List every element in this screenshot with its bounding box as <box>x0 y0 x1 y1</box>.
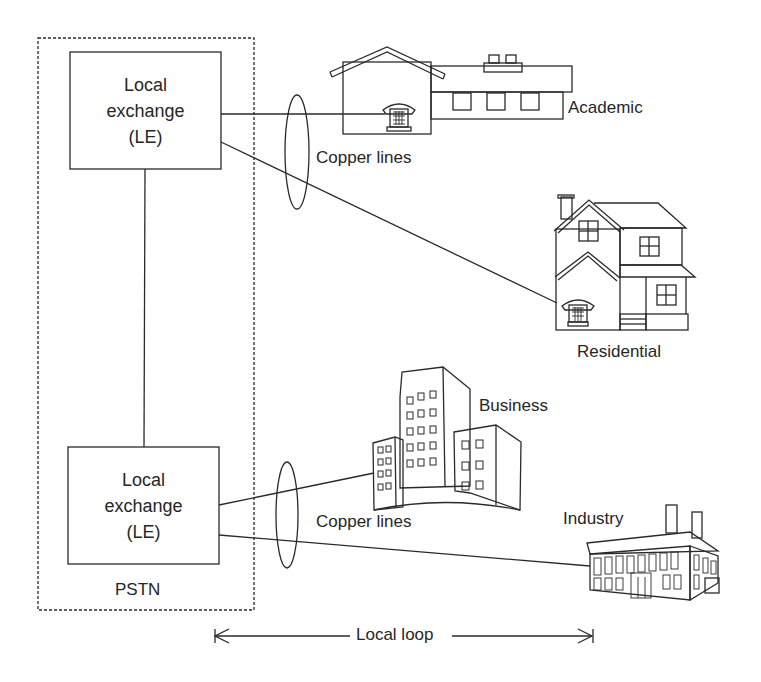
copper-lines-label-top: Copper lines <box>316 148 411 168</box>
copper-line-industry <box>219 535 590 566</box>
industry-label: Industry <box>563 509 623 529</box>
residential-house-icon <box>554 195 695 330</box>
local-exchange-top-label: Local exchange (LE) <box>70 72 221 150</box>
academic-label: Academic <box>568 98 643 118</box>
le-bottom-line3: (LE) <box>68 519 219 545</box>
telephone-icon <box>562 300 594 326</box>
le-top-line3: (LE) <box>70 124 221 150</box>
le-top-line2: exchange <box>70 98 221 124</box>
le-top-line1: Local <box>70 72 221 98</box>
pstn-label: PSTN <box>115 580 160 600</box>
local-exchange-bottom-label: Local exchange (LE) <box>68 467 219 545</box>
le-bottom-line1: Local <box>68 467 219 493</box>
business-label: Business <box>479 396 548 416</box>
local-loop-label: Local loop <box>356 625 434 645</box>
le-bottom-line2: exchange <box>68 493 219 519</box>
copper-lines-label-bottom: Copper lines <box>316 512 411 532</box>
business-buildings-icon <box>373 367 521 510</box>
copper-bundle-bottom <box>276 462 298 568</box>
telephone-icon <box>383 104 415 131</box>
academic-building-icon <box>330 47 572 134</box>
residential-label: Residential <box>577 342 661 362</box>
copper-bundle-top <box>285 95 309 209</box>
trunk-line <box>144 169 145 447</box>
